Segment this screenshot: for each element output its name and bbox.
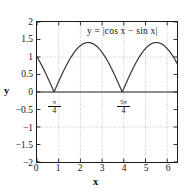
annotation-pi-over-4: π 4 [43, 99, 65, 115]
y-tick-label-neg0p5: −0.5 [16, 106, 33, 116]
y-tick-label-1: 1 [28, 53, 33, 63]
equation-annotation: y = |cos x − sin x| [87, 26, 158, 36]
x-tick-label-1: 1 [48, 164, 68, 174]
y-tick-label-0p5: 0.5 [21, 70, 33, 80]
x-tick-label-0: 0 [26, 164, 46, 174]
annotation-pi-over-4-denominator: 4 [43, 107, 65, 115]
x-tick-label-2: 2 [70, 164, 90, 174]
x-tick-label-3: 3 [92, 164, 112, 174]
annotation-5pi-over-4: 5π 4 [112, 99, 134, 115]
y-tick-label-neg1p5: −1.5 [16, 141, 33, 151]
y-tick-label-0: 0 [28, 88, 33, 98]
x-axis-label: x [0, 176, 191, 187]
chart-canvas [37, 22, 177, 162]
plot-area: y = |cos x − sin x| π 4 5π 4 [36, 21, 178, 163]
annotation-5pi-over-4-denominator: 4 [112, 107, 134, 115]
x-tick-label-4: 4 [114, 164, 134, 174]
y-tick-label-2: 2 [28, 18, 33, 28]
x-tick-label-6: 6 [158, 164, 178, 174]
y-tick-label-neg1: −1 [23, 124, 33, 134]
y-tick-label-1p5: 1.5 [21, 35, 33, 45]
y-axis-label: y [4, 85, 9, 96]
chart-figure: 2 1.5 1 0.5 0 −0.5 −1 −1.5 −2 y y = |cos… [0, 0, 191, 193]
x-tick-label-5: 5 [136, 164, 156, 174]
data-curve [37, 43, 177, 92]
